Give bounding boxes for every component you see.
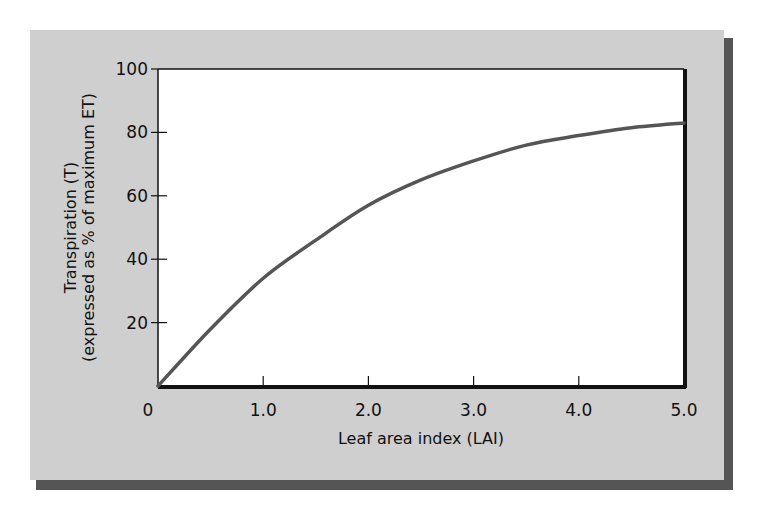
y-tick-label: 20 xyxy=(126,313,148,333)
y-tick-label: 60 xyxy=(126,186,148,206)
plot-area: 01.02.03.04.05.020406080100Leaf area ind… xyxy=(61,59,698,448)
x-axis-label: Leaf area index (LAI) xyxy=(338,429,504,448)
y-tick-label: 40 xyxy=(126,249,148,269)
x-tick-label: 1.0 xyxy=(250,400,277,420)
x-tick-label: 0 xyxy=(143,400,154,420)
plot-background xyxy=(158,69,684,386)
y-axis-label-line1: Transpiration (T) xyxy=(61,162,80,294)
x-tick-label: 2.0 xyxy=(355,400,382,420)
x-tick-label: 4.0 xyxy=(565,400,592,420)
y-tick-label: 100 xyxy=(116,59,148,79)
y-axis-label-line2: (expressed as % of maximum ET) xyxy=(79,93,98,362)
x-tick-label: 5.0 xyxy=(670,400,697,420)
y-tick-label: 80 xyxy=(126,122,148,142)
chart: 01.02.03.04.05.020406080100Leaf area ind… xyxy=(0,0,758,515)
x-tick-label: 3.0 xyxy=(460,400,487,420)
